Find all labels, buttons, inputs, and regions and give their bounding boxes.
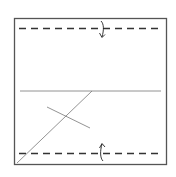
- origami-diagram: [0, 0, 176, 177]
- paper-square: [15, 19, 167, 165]
